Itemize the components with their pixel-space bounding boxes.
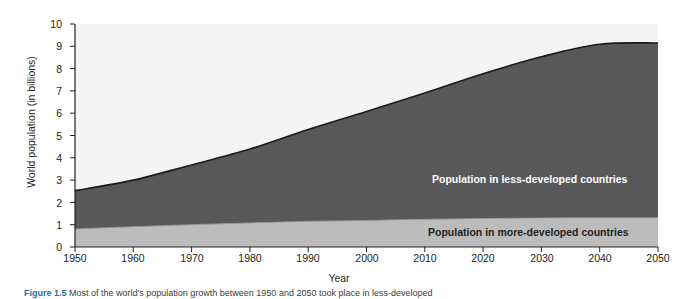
x-tick-marks: [75, 247, 658, 252]
y-tick-marks: [70, 24, 75, 247]
figure-caption: Figure 1.5 Most of the world's populatio…: [24, 288, 664, 299]
figure-caption-text: Most of the world's population growth be…: [69, 288, 432, 298]
figure-caption-label: Figure 1.5: [24, 288, 67, 298]
series-label-less-developed: Population in less-developed countries: [432, 173, 627, 185]
series-label-more-developed: Population in more-developed countries: [428, 226, 629, 238]
